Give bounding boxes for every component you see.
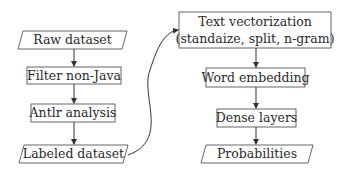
filter-non-java-label: Filter non-Java [27,67,121,84]
text-vectorization-sublabel: (standaize, split, n-gram) [179,30,331,47]
word-embedding-label: Word embedding [206,68,305,87]
antlr-analysis-label: Antlr analysis [31,104,115,122]
text-vectorization-label: Text vectorization [179,13,331,30]
dense-layers-label: Dense layers [217,109,296,127]
raw-dataset-label: Raw dataset [18,31,127,49]
arrow-labeled-to-vectorization [128,30,178,155]
probabilities-label: Probabilities [201,145,313,163]
labeled-dataset-label: Labeled dataset [19,145,128,163]
